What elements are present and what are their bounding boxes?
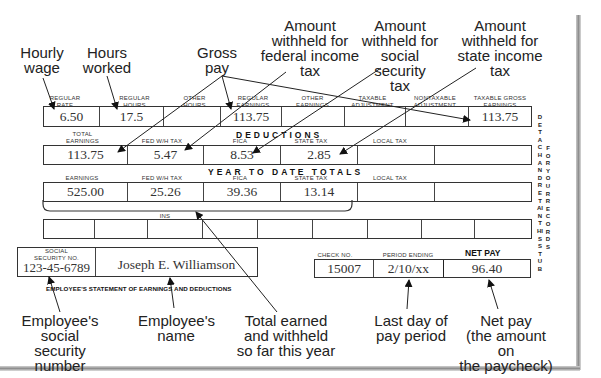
- cell-ytd-fed-wh-tax: 25.26: [128, 183, 204, 201]
- paper-edge-right: [576, 15, 581, 370]
- cell-total-earnings: 113.75: [44, 146, 128, 164]
- cell-fed-wh-tax: 5.47: [128, 146, 204, 164]
- check-box: 15007 2/10/xx 96.40: [314, 259, 531, 278]
- header-period-ending: PERIOD ENDING: [378, 252, 438, 259]
- header-ytd-fed-wh-tax: FED W/H TAX: [137, 175, 187, 182]
- net-pay-title: NET PAY: [465, 248, 500, 258]
- callout-period-end: Last day of pay period: [370, 313, 452, 343]
- cell-regular-hours: 17.5: [100, 107, 164, 126]
- header-ytd-fica: FICA: [225, 175, 255, 182]
- header-fica: FICA: [225, 138, 255, 145]
- callout-hours-worked: Hours worked: [82, 45, 132, 75]
- cell-ytd-local-tax: [358, 183, 435, 201]
- earnings-row: 6.50 17.5 113.75 113.75: [43, 106, 532, 127]
- cell-ins-2: [95, 220, 148, 238]
- callout-social-security-tax: Amount withheld for social security tax: [355, 18, 445, 93]
- cell-regular-rate: 6.50: [44, 107, 100, 126]
- cell-taxable-gross-earnings: 113.75: [469, 107, 531, 126]
- side-text-detach: DETACH AND RETAIN THIS STUB: [537, 114, 543, 273]
- side-text-records: FOR YOUR RECORDS: [545, 145, 551, 251]
- statement-title: EMPLOYEE'S STATEMENT OF EARNINGS AND DED…: [46, 285, 232, 292]
- cell-check-no: 15007: [315, 260, 374, 277]
- header-ytd-state-tax: STATE TAX: [291, 175, 331, 182]
- cell-state-tax: 2.85: [281, 146, 358, 164]
- employee-info-box: SOCIAL SECURITY NO. 123-45-6789 Joseph E…: [17, 247, 258, 277]
- cell-other-earnings: [282, 107, 345, 126]
- cell-period-ending: 2/10/xx: [374, 260, 444, 277]
- cell-net-pay: 96.40: [444, 260, 530, 277]
- deductions-row: 113.75 5.47 8.53 2.85: [43, 145, 532, 165]
- callout-net-pay: Net pay (the amount on the paycheck): [458, 313, 554, 373]
- callout-gross-pay: Gross pay: [195, 45, 239, 75]
- cell-ins-3: [148, 220, 203, 238]
- ssn-value: 123-45-6789: [23, 261, 90, 274]
- cell-deductions-extra: [435, 146, 531, 164]
- cell-fica: 8.53: [204, 146, 281, 164]
- cell-local-tax: [358, 146, 435, 164]
- employee-name-cell: Joseph E. Williamson: [96, 248, 257, 276]
- cell-ytd-state-tax: 13.14: [281, 183, 358, 201]
- header-ytd-earnings: EARNINGS: [57, 175, 107, 182]
- callout-state-tax: Amount withheld for state income tax: [455, 18, 545, 78]
- cell-ins-5: [258, 220, 313, 238]
- callout-hourly-wage: Hourly wage: [20, 45, 64, 75]
- header-fed-wh-tax: FED W/H TAX: [137, 138, 187, 145]
- cell-ins-8: [422, 220, 475, 238]
- header-check-no: CHECK NO.: [315, 252, 355, 259]
- callout-ytd: Total earned and withheld so far this ye…: [236, 313, 336, 358]
- cell-ins-7: [368, 220, 422, 238]
- cell-ytd-earnings: 525.00: [44, 183, 128, 201]
- cell-other-hours: [164, 107, 221, 126]
- cell-ins-9: [475, 220, 531, 238]
- cell-ytd-extra: [435, 183, 531, 201]
- header-state-tax: STATE TAX: [291, 138, 331, 145]
- callout-ssn: Employee's social security number: [15, 313, 105, 373]
- cell-ins-1: [44, 220, 95, 238]
- cell-taxable-adjustment: [345, 107, 406, 126]
- callout-name: Employee's name: [138, 313, 214, 343]
- header-total-earnings: TOTAL EARNINGS: [60, 131, 105, 144]
- cell-ins-4: [203, 220, 258, 238]
- ssn-cell: SOCIAL SECURITY NO. 123-45-6789: [18, 248, 96, 276]
- header-local-tax: LOCAL TAX: [370, 138, 410, 145]
- callout-federal-tax: Amount withheld for federal income tax: [255, 18, 365, 78]
- ins-row: [43, 219, 532, 239]
- cell-ytd-fica: 39.36: [204, 183, 281, 201]
- cell-ins-6: [313, 220, 368, 238]
- ytd-row: 525.00 25.26 39.36 13.14: [43, 182, 532, 202]
- cell-nontaxable-adjustment: [406, 107, 469, 126]
- cell-regular-earnings: 113.75: [221, 107, 282, 126]
- header-ytd-local-tax: LOCAL TAX: [370, 175, 410, 182]
